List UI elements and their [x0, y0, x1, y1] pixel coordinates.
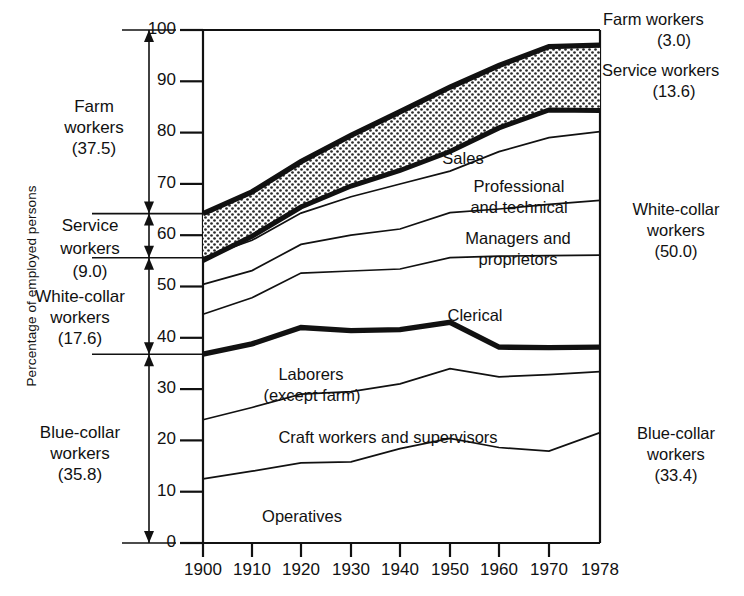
- y-axis-ticks: [180, 30, 203, 543]
- chart-container: Percentage of employed persons 100 90 80…: [0, 0, 744, 596]
- series-line-laborers: [203, 322, 600, 354]
- left-bracket-value-service: (9.0): [36, 262, 144, 282]
- left-bracket-label-blue-line2: workers: [16, 444, 144, 464]
- x-tick-label-1978: 1978: [562, 560, 638, 580]
- right-value-farm-workers: (3.0): [603, 31, 744, 50]
- series-label-professional-l1: Professional: [436, 177, 602, 196]
- y-tick-label-30: 30: [128, 378, 176, 398]
- y-tick-label-100: 100: [128, 19, 176, 39]
- left-bracket-label-service-line1: Service: [36, 216, 144, 236]
- right-label-blue-collar-line1: Blue-collar: [608, 424, 744, 443]
- series-label-sales: Sales: [418, 149, 508, 168]
- left-bracket-value-white: (17.6): [16, 329, 144, 349]
- right-label-service-workers: Service workers: [602, 61, 744, 80]
- left-bracket-label-farm-line1: Farm: [44, 97, 144, 117]
- right-label-farm-workers: Farm workers: [603, 10, 744, 29]
- series-label-managers-l2: proprietors: [432, 250, 604, 269]
- right-value-blue-collar: (33.4): [608, 466, 744, 485]
- right-value-white-collar: (50.0): [608, 242, 744, 261]
- series-label-managers-l1: Managers and: [432, 229, 604, 248]
- series-label-laborers-l2: (except farm): [232, 386, 392, 405]
- left-bracket-label-blue-line1: Blue-collar: [16, 423, 144, 443]
- left-bracket-label-white-line1: White-collar: [16, 287, 144, 307]
- series-label-operatives: Operatives: [232, 507, 372, 526]
- y-axis-title: Percentage of employed persons: [24, 156, 40, 416]
- series-label-professional-l2: and technical: [436, 198, 602, 217]
- left-bracket-value-blue: (35.8): [16, 465, 144, 485]
- right-label-white-collar-line1: White-collar: [608, 200, 744, 219]
- y-tick-label-0: 0: [128, 532, 176, 552]
- series-label-clerical: Clerical: [420, 306, 530, 325]
- left-bracket-label-white-line2: workers: [16, 308, 144, 328]
- right-label-blue-collar-line2: workers: [608, 445, 744, 464]
- left-bracket-label-service-line2: workers: [36, 239, 144, 259]
- y-tick-label-90: 90: [128, 70, 176, 90]
- y-tick-label-70: 70: [128, 173, 176, 193]
- series-label-craft-workers: Craft workers and supervisors: [228, 428, 548, 447]
- left-bracket-label-farm-line2: workers: [44, 118, 144, 138]
- left-bracket-value-farm: (37.5): [44, 139, 144, 159]
- right-label-white-collar-line2: workers: [608, 221, 744, 240]
- right-value-service-workers: (13.6): [602, 82, 744, 101]
- series-label-laborers-l1: Laborers: [246, 365, 376, 384]
- x-axis-ticks: [203, 543, 549, 557]
